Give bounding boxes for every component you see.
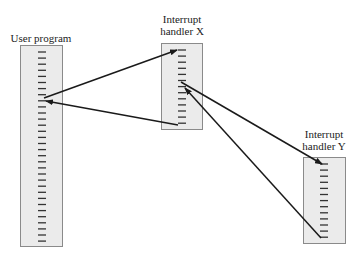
arrow-hy-to-hx (185, 88, 321, 238)
arrow-user-to-hx (44, 50, 177, 98)
arrow-hx-to-hy (181, 82, 322, 164)
diagram-canvas (0, 0, 363, 261)
control-flow-arrows (44, 50, 322, 238)
instruction-dashes (38, 50, 328, 241)
arrow-hx-to-user (46, 101, 178, 125)
